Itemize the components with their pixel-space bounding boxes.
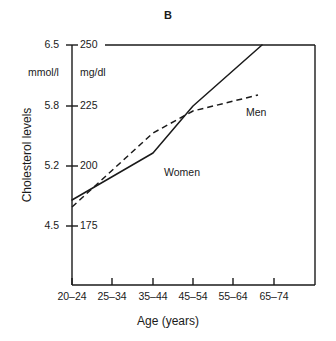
chart-figure: B Cholesterol levels mmol/l mg/dl 4.5 5.… <box>0 0 336 341</box>
axis-frame <box>72 45 315 285</box>
series-line-men <box>72 95 258 207</box>
series-line-women <box>72 45 262 200</box>
x-axis-ticks <box>72 278 274 285</box>
x-axis-title: Age (years) <box>0 314 336 328</box>
chart-plot-area <box>0 0 336 341</box>
